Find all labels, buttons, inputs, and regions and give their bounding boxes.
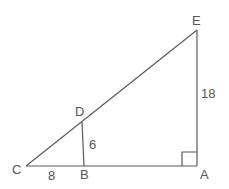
vertex-label-a: A xyxy=(200,167,209,182)
length-label-cb: 8 xyxy=(48,168,55,183)
length-label-ea: 18 xyxy=(201,86,215,101)
length-label-db: 6 xyxy=(89,137,96,152)
vertex-label-e: E xyxy=(192,13,201,28)
right-angle-marker xyxy=(182,152,197,166)
vertex-label-b: B xyxy=(80,167,89,182)
vertex-label-c: C xyxy=(12,162,21,177)
segment-db xyxy=(82,122,84,166)
vertex-label-d: D xyxy=(75,104,84,119)
segment-ce xyxy=(26,30,197,166)
triangle-diagram: E D C B A 18 6 8 xyxy=(0,0,229,189)
